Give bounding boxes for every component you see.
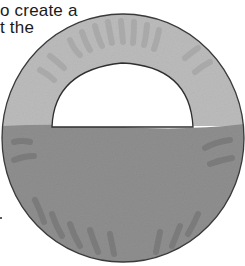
text-fragment-period	[0, 217, 2, 219]
plate-arch-illustration	[0, 0, 245, 266]
body-text-line-2: t the	[0, 18, 34, 38]
